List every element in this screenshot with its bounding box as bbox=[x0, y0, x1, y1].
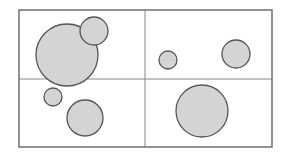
circle-c3 bbox=[159, 51, 177, 69]
circle-c2 bbox=[80, 17, 108, 45]
circle-c5 bbox=[44, 88, 62, 106]
circle-c4 bbox=[222, 40, 250, 68]
circle-c7 bbox=[176, 85, 228, 137]
figure-canvas bbox=[0, 0, 287, 158]
circle-diagram bbox=[0, 0, 287, 158]
circle-c6 bbox=[67, 100, 103, 136]
